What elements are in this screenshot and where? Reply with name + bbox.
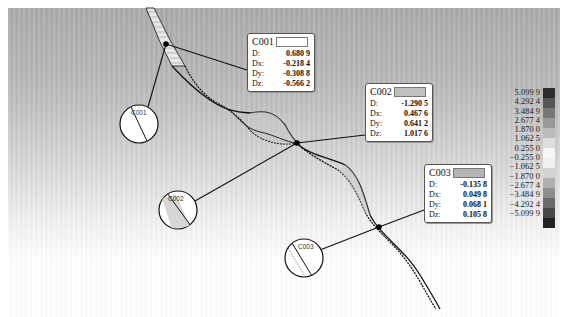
- legend-swatch: [543, 178, 555, 188]
- legend-swatch: [543, 108, 555, 118]
- detail-circle-c001[interactable]: C001: [120, 105, 158, 143]
- legend-swatch: [543, 188, 555, 198]
- legend-swatch: [543, 208, 555, 218]
- detail-label-c001: C001: [131, 109, 147, 116]
- value-dy: 0.068 1: [447, 200, 487, 210]
- leader-c003: [379, 210, 424, 227]
- color-legend: 5.099 9 4.292 4 3.484 9 2.677 4 1.870 0 …: [504, 88, 560, 232]
- legend-swatch: [543, 158, 555, 168]
- value-dz: -0.566 2: [270, 79, 310, 89]
- label-d: D:: [429, 180, 445, 190]
- legend-swatch: [543, 168, 555, 178]
- point-c003[interactable]: [376, 224, 382, 230]
- leader-c001-detail: [148, 44, 166, 107]
- detail-label-c003: C003: [298, 243, 314, 250]
- leader-c002: [297, 135, 365, 143]
- color-swatch: [453, 168, 485, 178]
- value-dx: -0.218 4: [270, 59, 310, 69]
- point-c001[interactable]: [163, 41, 169, 47]
- label-dy: Dy:: [252, 69, 268, 79]
- label-d: D:: [252, 49, 268, 59]
- detail-circle-c003[interactable]: C003: [285, 239, 323, 278]
- label-dy: Dy:: [370, 119, 386, 129]
- point-c002[interactable]: [294, 140, 300, 146]
- callout-c002[interactable]: C002 D:-1.290 5 Dx:0.467 6 Dy:0.641 2 Dz…: [365, 83, 433, 142]
- legend-swatch: [543, 98, 555, 108]
- value-dz: 0.105 8: [447, 210, 487, 220]
- legend-swatch: [543, 218, 555, 228]
- bank-fill-mid: [250, 112, 300, 146]
- detail-label-c002: C002: [168, 195, 184, 202]
- label-d: D:: [370, 99, 386, 109]
- color-swatch: [394, 87, 426, 97]
- value-dx: 0.049 8: [447, 190, 487, 200]
- callout-id: C002: [370, 86, 392, 98]
- legend-labels: 5.099 9 4.292 4 3.484 9 2.677 4 1.870 0 …: [504, 88, 540, 218]
- value-d: -1.290 5: [388, 99, 428, 109]
- label-dx: Dx:: [252, 59, 268, 69]
- label-dz: Dz:: [429, 210, 445, 220]
- legend-colorbar: [543, 88, 555, 228]
- label-dy: Dy:: [429, 200, 445, 210]
- legend-swatch: [543, 138, 555, 148]
- label-dx: Dx:: [429, 190, 445, 200]
- label-dz: Dz:: [252, 79, 268, 89]
- bank-fill-lower: [338, 165, 370, 215]
- legend-swatch: [543, 118, 555, 128]
- callout-id: C003: [429, 167, 451, 179]
- value-dy: 0.641 2: [388, 119, 428, 129]
- color-swatch: [276, 37, 308, 47]
- legend-label: −5.099 9: [504, 209, 540, 218]
- label-dz: Dz:: [370, 129, 386, 139]
- callout-c001[interactable]: C001 D:0.680 9 Dx:-0.218 4 Dy:-0.308 8 D…: [247, 33, 315, 92]
- callout-c003[interactable]: C003 D:-0.135 8 Dx:0.049 8 Dy:0.068 1 Dz…: [424, 164, 492, 223]
- legend-swatch: [543, 88, 555, 98]
- deformation-map: C001 C002 C003 C001 D:0.680 9 Dx:-0.218 …: [0, 0, 564, 317]
- leader-c002-detail: [195, 143, 297, 201]
- value-dx: 0.467 6: [388, 109, 428, 119]
- detail-circle-c002[interactable]: C002: [159, 191, 197, 229]
- value-dz: 1.017 6: [388, 129, 428, 139]
- legend-swatch: [543, 198, 555, 208]
- value-d: 0.680 9: [270, 49, 310, 59]
- leader-c003-detail: [320, 227, 379, 250]
- callout-id: C001: [252, 36, 274, 48]
- legend-swatch: [543, 128, 555, 138]
- value-dy: -0.308 8: [270, 69, 310, 79]
- value-d: -0.135 8: [447, 180, 487, 190]
- label-dx: Dx:: [370, 109, 386, 119]
- legend-swatch: [543, 148, 555, 158]
